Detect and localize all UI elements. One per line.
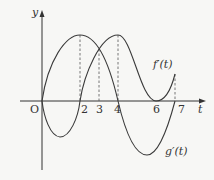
g-prime-label: g′(t) xyxy=(165,145,188,158)
tick-label-3: 3 xyxy=(96,103,103,116)
graph-diagram: y t O 2 3 4 6 7 f′(t) g′(t) xyxy=(0,0,214,180)
tick-label-7: 7 xyxy=(178,103,185,116)
x-axis-label: t xyxy=(198,103,203,116)
y-axis-arrow-icon xyxy=(40,10,45,17)
f-prime-label: f′(t) xyxy=(152,58,173,71)
tick-label-6: 6 xyxy=(153,103,160,116)
origin-label: O xyxy=(30,103,39,116)
y-axis-label: y xyxy=(31,6,39,19)
tick-label-2: 2 xyxy=(81,103,88,116)
tick-label-4: 4 xyxy=(114,103,121,116)
f-prime-curve xyxy=(42,35,175,137)
